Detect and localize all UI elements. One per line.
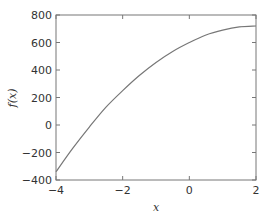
y-axis-ticks: −400−2000200400600800 bbox=[22, 9, 256, 187]
x-tick-label: 2 bbox=[253, 184, 260, 197]
y-tick-label: 200 bbox=[31, 92, 52, 105]
y-tick-label: −200 bbox=[22, 147, 52, 160]
y-tick-label: 0 bbox=[45, 119, 52, 132]
x-tick-label: −2 bbox=[115, 184, 131, 197]
y-axis-label: f(x) bbox=[6, 89, 19, 109]
x-axis-ticks: −4−202 bbox=[48, 15, 260, 197]
axes-frame bbox=[56, 15, 256, 180]
y-tick-label: 800 bbox=[31, 9, 52, 22]
line-chart: −4−202 −400−2000200400600800 x f(x) bbox=[0, 0, 270, 218]
series-line-0 bbox=[56, 26, 256, 172]
x-axis-label: x bbox=[153, 201, 160, 214]
y-tick-label: −400 bbox=[22, 174, 52, 187]
x-tick-label: 0 bbox=[186, 184, 193, 197]
y-tick-label: 600 bbox=[31, 37, 52, 50]
y-tick-label: 400 bbox=[31, 64, 52, 77]
plot-area bbox=[56, 15, 256, 180]
